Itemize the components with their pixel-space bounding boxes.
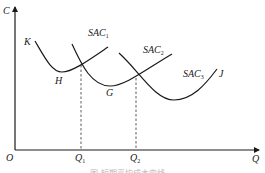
point-h-label: H: [54, 75, 63, 86]
origin-label: O: [6, 152, 13, 163]
sac2-label: SAC2: [143, 44, 164, 56]
sac1-label: SAC1: [88, 27, 109, 39]
figure-caption: 图 短期平均成本曲线: [90, 168, 165, 173]
y-axis-label: C: [3, 5, 10, 16]
point-g-label: G: [106, 87, 113, 98]
sac3-label: SAC3: [183, 68, 204, 80]
point-j-label: J: [219, 68, 224, 79]
q1-label: Q1: [75, 152, 85, 164]
q2-label: Q2: [130, 152, 140, 164]
sac1-curve: [35, 41, 108, 72]
diagram-canvas: C O Q Q1 Q2 SAC1 SAC2 SAC3 K H G J 图 短期平…: [0, 0, 265, 173]
cost-curve-diagram: C O Q Q1 Q2 SAC1 SAC2 SAC3 K H G J 图 短期平…: [0, 0, 265, 173]
point-k-label: K: [23, 36, 32, 47]
x-axis-label: Q: [252, 153, 260, 164]
